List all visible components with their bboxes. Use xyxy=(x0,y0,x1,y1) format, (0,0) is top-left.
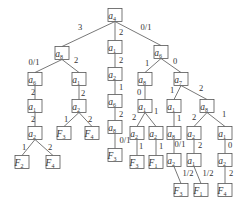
leaf-node: F1 xyxy=(193,184,208,197)
edge-label: 1 xyxy=(222,109,226,119)
edge-label: 2 xyxy=(88,114,92,124)
edge-label: 0/1 xyxy=(120,135,131,145)
edge-label: 2 xyxy=(48,142,52,152)
edge-label: 1 xyxy=(64,114,68,124)
edge-label: 0/1 xyxy=(141,22,152,32)
edge-label: 2 xyxy=(199,83,203,93)
tree-edge xyxy=(62,22,115,47)
edge-label: 1 xyxy=(170,85,174,95)
leaf-node: F4 xyxy=(45,156,60,169)
tree-edge xyxy=(161,59,181,73)
edge-label: 2 xyxy=(31,114,35,124)
decision-node: a1 xyxy=(108,41,122,54)
leaf-node: F2 xyxy=(14,156,29,169)
edge-label: 2 xyxy=(132,112,136,122)
tree-edge xyxy=(174,167,181,184)
edge-label: 2 xyxy=(74,55,78,65)
edge-label: 1 xyxy=(119,82,123,92)
decision-node: a1 xyxy=(167,100,181,113)
edge-label: 0/1 xyxy=(29,57,40,67)
tree-edge xyxy=(194,167,201,184)
edge-label: 2 xyxy=(229,168,233,178)
edge-label: 2 xyxy=(198,140,202,150)
edge-label: 1 xyxy=(22,142,26,152)
leaf-node: F3 xyxy=(129,156,144,169)
leaf-node: F3 xyxy=(56,127,71,140)
edge-label: 0 xyxy=(137,87,141,97)
leaf-node: F3 xyxy=(173,184,188,197)
edge-label: 3 xyxy=(78,22,82,32)
decision-node: a6 xyxy=(154,46,168,59)
edge-label: 2 xyxy=(119,27,123,37)
decision-node: a2 xyxy=(130,127,144,140)
decision-node: a1 xyxy=(138,100,152,113)
decision-node: a1 xyxy=(72,73,86,86)
edge-label: 1/2 xyxy=(183,168,194,178)
decision-node: a1 xyxy=(218,127,232,140)
decision-node: a2 xyxy=(187,127,201,140)
decision-node: a6 xyxy=(108,95,122,108)
leaf-node: F3 xyxy=(107,149,122,162)
decision-node: a2 xyxy=(72,100,86,113)
decision-node: a4 xyxy=(108,9,122,22)
decision-node: a6 xyxy=(28,73,42,86)
decision-node: a7 xyxy=(174,73,188,86)
leaf-node: F1 xyxy=(148,156,163,169)
tree-edge xyxy=(174,86,181,100)
leaf-node: F4 xyxy=(217,184,232,197)
edge-label: 0 xyxy=(173,56,177,66)
edge-label: 1 xyxy=(139,141,143,151)
decision-node: a2 xyxy=(108,68,122,81)
decision-node: a1 xyxy=(28,100,42,113)
decision-node: a2 xyxy=(167,154,181,167)
decision-node: a8 xyxy=(200,100,214,113)
decision-node: a2 xyxy=(218,154,232,167)
edge-label: 2 xyxy=(119,55,123,65)
edge-label: 0/1 xyxy=(175,139,186,149)
tree-edge xyxy=(137,113,145,127)
decision-node: a1 xyxy=(187,154,201,167)
edge-label: 2 xyxy=(192,112,196,122)
decision-node: a8 xyxy=(138,73,152,86)
edge-label: 1 xyxy=(177,113,181,123)
edge-label: 0 xyxy=(228,140,232,150)
edge-label: 1/2 xyxy=(203,168,214,178)
edge-label: 2 xyxy=(119,109,123,119)
decision-node: a8 xyxy=(55,47,69,60)
decision-node: a2 xyxy=(28,127,42,140)
decision-node: a8 xyxy=(108,121,122,134)
edge-label: 1 xyxy=(145,58,149,68)
edge-label: 2 xyxy=(81,88,85,98)
edge-label: 1 xyxy=(154,106,158,116)
decision-tree-diagram: 320/10/1222122122120/11002111110/11/2222… xyxy=(0,0,248,218)
decision-node: a2 xyxy=(149,127,163,140)
edge-label: 1 xyxy=(159,141,163,151)
decision-node: a8 xyxy=(167,127,181,140)
leaf-node: F4 xyxy=(84,127,99,140)
edge-label: 2 xyxy=(31,87,35,97)
